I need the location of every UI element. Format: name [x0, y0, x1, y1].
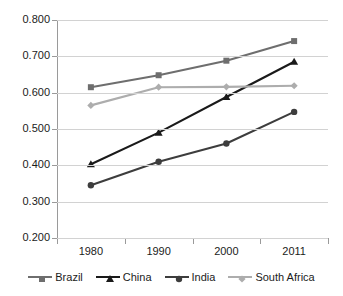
x-axis-tick-mark — [328, 239, 329, 244]
x-axis-tick-mark — [125, 239, 126, 244]
y-axis-tick-label: 0.800 — [4, 14, 50, 25]
legend-item-label: India — [192, 271, 216, 283]
data-point-marker — [88, 84, 94, 90]
legend-swatch-icon — [165, 271, 189, 283]
legend-item-brazil[interactable]: Brazil — [28, 271, 83, 283]
series-line — [91, 86, 294, 106]
legend-swatch-icon — [28, 271, 52, 283]
gridline — [57, 129, 328, 130]
data-point-marker — [156, 72, 162, 78]
y-axis-tick-mark — [52, 165, 57, 166]
gridline — [57, 202, 328, 203]
data-point-marker — [291, 109, 297, 115]
legend-item-south-africa[interactable]: South Africa — [228, 271, 314, 283]
data-point-marker — [291, 82, 298, 89]
series-brazil — [88, 38, 297, 90]
y-axis-tick-label: 0.300 — [4, 196, 50, 207]
legend-swatch-icon — [228, 271, 252, 283]
chart-legend: BrazilChinaIndiaSouth Africa — [0, 266, 343, 288]
data-point-marker — [106, 275, 114, 282]
x-axis-tick-mark — [260, 239, 261, 244]
x-axis-tick-label: 2000 — [196, 245, 256, 257]
gridline — [57, 20, 328, 21]
data-point-marker — [87, 102, 94, 109]
legend-item-india[interactable]: India — [165, 271, 216, 283]
y-axis-tick-label: 0.600 — [4, 87, 50, 98]
data-point-marker — [155, 159, 161, 165]
data-point-marker — [291, 38, 297, 44]
data-point-marker — [88, 182, 94, 188]
data-point-marker — [223, 58, 229, 64]
plot-area — [57, 20, 328, 238]
legend-item-label: Brazil — [55, 271, 83, 283]
gridline — [57, 165, 328, 166]
y-axis-tick-label: 0.700 — [4, 50, 50, 61]
y-axis-tick-mark — [52, 20, 57, 21]
y-axis-tick-mark — [52, 129, 57, 130]
y-axis-tick-mark — [52, 93, 57, 94]
x-axis-tick-label: 2011 — [264, 245, 324, 257]
data-point-marker — [290, 58, 298, 65]
legend-swatch-icon — [96, 271, 120, 283]
series-india — [88, 109, 298, 189]
y-axis-tick-labels: 0.8000.7000.6000.5000.4000.3000.200 — [0, 0, 50, 296]
y-axis-tick-mark — [52, 202, 57, 203]
line-chart: 0.8000.7000.6000.5000.4000.3000.200 Braz… — [0, 0, 343, 296]
gridline — [57, 56, 328, 57]
data-point-marker — [39, 276, 45, 282]
x-axis-tick-mark — [193, 239, 194, 244]
series-china — [87, 58, 298, 167]
legend-item-label: South Africa — [255, 271, 314, 283]
series-line — [91, 62, 294, 164]
y-axis-tick-label: 0.400 — [4, 159, 50, 170]
legend-item-label: China — [123, 271, 152, 283]
gridline — [57, 93, 328, 94]
y-axis-tick-label: 0.200 — [4, 232, 50, 243]
x-axis-tick-label: 1990 — [129, 245, 189, 257]
data-point-marker — [155, 84, 162, 91]
y-axis-tick-mark — [52, 56, 57, 57]
data-point-marker — [223, 83, 230, 90]
y-axis-tick-label: 0.500 — [4, 123, 50, 134]
x-axis-tick-mark — [57, 239, 58, 244]
legend-item-china[interactable]: China — [96, 271, 152, 283]
series-line — [91, 112, 294, 185]
x-axis-tick-label: 1980 — [61, 245, 121, 257]
data-point-marker — [223, 140, 229, 146]
data-point-marker — [239, 275, 246, 282]
series-south-africa — [87, 82, 297, 109]
series-line — [91, 41, 294, 87]
data-point-marker — [175, 276, 181, 282]
